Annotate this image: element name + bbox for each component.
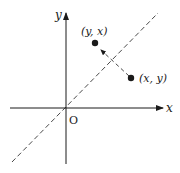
y-axis-label: y <box>54 8 62 22</box>
origin-label: O <box>69 114 78 127</box>
reflection-arrow <box>101 50 129 76</box>
x-axis-label: x <box>166 101 173 115</box>
diagram-canvas: y x O (y, x) (x, y) <box>0 0 180 173</box>
reflection-diagram: y x O (y, x) (x, y) <box>0 0 180 173</box>
point-original <box>128 75 134 81</box>
point-reflected <box>92 40 98 46</box>
original-point-label: (x, y) <box>139 72 167 85</box>
reflected-point-label: (y, x) <box>81 25 108 38</box>
